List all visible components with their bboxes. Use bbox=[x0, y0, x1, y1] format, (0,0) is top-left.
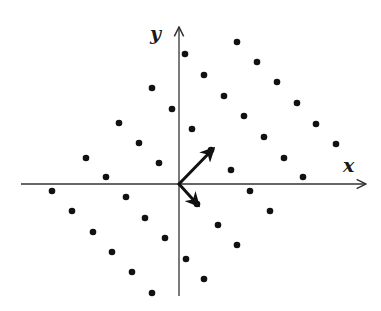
lattice-point bbox=[221, 93, 228, 100]
lattice-point bbox=[234, 39, 241, 46]
lattice-point bbox=[300, 174, 307, 181]
lattice-point bbox=[254, 59, 261, 66]
basis-vector-v1 bbox=[179, 149, 213, 184]
lattice-point bbox=[149, 290, 156, 297]
lattice-point bbox=[228, 167, 235, 174]
lattice-point bbox=[274, 79, 281, 86]
lattice-point bbox=[183, 256, 190, 263]
lattice-point bbox=[201, 276, 208, 283]
lattice-point bbox=[241, 113, 248, 120]
x-axis-label: x bbox=[342, 154, 355, 176]
lattice-point bbox=[90, 229, 97, 236]
lattice-point bbox=[129, 269, 136, 276]
lattice-point bbox=[69, 208, 76, 215]
lattice-point bbox=[247, 188, 254, 195]
lattice-point bbox=[215, 222, 222, 229]
lattice-diagram: y x bbox=[0, 0, 381, 311]
lattice-point bbox=[162, 235, 169, 242]
lattice-point bbox=[109, 249, 116, 256]
lattice-point bbox=[49, 188, 56, 195]
lattice-point bbox=[103, 174, 110, 181]
basis-vectors bbox=[179, 149, 213, 205]
lattice-point bbox=[136, 140, 143, 147]
lattice-point bbox=[189, 126, 196, 133]
lattice-point bbox=[142, 215, 149, 222]
basis-vector-v2 bbox=[179, 184, 198, 205]
lattice-point bbox=[234, 242, 241, 249]
lattice-point bbox=[149, 85, 156, 92]
lattice-point bbox=[261, 134, 268, 141]
lattice-point bbox=[201, 72, 208, 79]
lattice-point bbox=[267, 208, 274, 215]
lattice-point bbox=[169, 106, 176, 113]
lattice-point bbox=[281, 155, 288, 162]
y-axis-label: y bbox=[149, 22, 163, 44]
lattice-point bbox=[182, 51, 189, 58]
lattice-point bbox=[83, 155, 90, 162]
lattice-point bbox=[333, 141, 340, 148]
lattice-point bbox=[156, 160, 163, 167]
lattice-point bbox=[123, 194, 130, 201]
lattice-point bbox=[313, 121, 320, 128]
lattice-point bbox=[116, 120, 123, 127]
lattice-point bbox=[294, 100, 301, 107]
